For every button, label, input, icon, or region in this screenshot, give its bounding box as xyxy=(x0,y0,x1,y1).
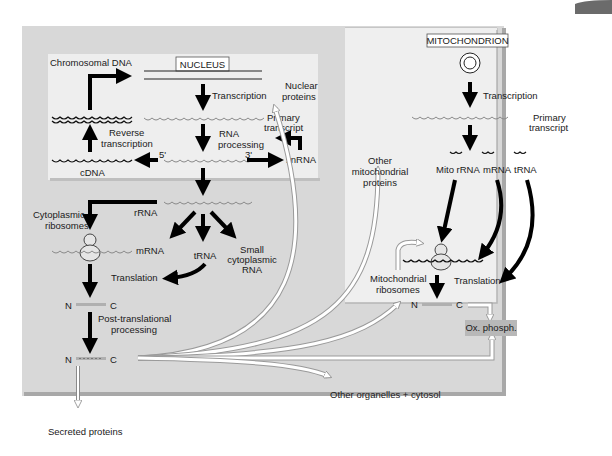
reverse-transcription-label-1: Reverse xyxy=(109,127,144,138)
nucleus-title: NUCLEUS xyxy=(180,59,225,70)
mito-primary-transcript-label-2: transcript xyxy=(529,122,568,133)
mito-c-label: C xyxy=(456,299,463,310)
mature-n-label: N xyxy=(65,354,72,365)
nucleus-panel-shadow xyxy=(50,178,320,181)
cytoplasmic-ribosomes-label-2: ribosomes xyxy=(45,220,89,231)
mito-transcription-label: Transcription xyxy=(483,90,538,101)
cyto-trna-label: tRNA xyxy=(194,250,217,261)
cyto-mrna-label: mRNA xyxy=(136,245,165,256)
nuclear-proteins-label-1: Nuclear xyxy=(285,80,318,91)
mito-n-label: N xyxy=(411,299,418,310)
mito-trna-arrow xyxy=(505,180,533,278)
nascent-n-label: N xyxy=(65,300,72,311)
chromosomal-dna-label: Chromosomal DNA xyxy=(50,57,132,68)
cyto-translation-label: Translation xyxy=(111,272,158,283)
rrna-label: rRNA xyxy=(134,207,158,218)
mito-trna-label: tRNA xyxy=(514,164,537,175)
mtdna-circle-icon xyxy=(460,53,480,73)
nascent-peptide xyxy=(76,303,106,306)
rna-processing-label-1: RNA xyxy=(219,128,240,139)
pathway-diagram: NUCLEUS Chromosomal DNA Transcription Nu… xyxy=(0,0,612,456)
other-mito-proteins-label-1: Other xyxy=(368,155,392,166)
mito-ribosomes-label-1: Mitochondrial xyxy=(370,273,427,284)
reverse-transcription-label-2: transcription xyxy=(101,138,153,149)
mature-c-label: C xyxy=(110,354,117,365)
nuclear-proteins-label-2: proteins xyxy=(282,91,316,102)
secreted-proteins-label: Secreted proteins xyxy=(48,426,123,437)
mito-translation-label: Translation xyxy=(454,275,501,286)
cdna-label: cDNA xyxy=(80,167,105,178)
mito-peptide xyxy=(422,303,452,306)
five-prime-label: 5' xyxy=(159,149,166,160)
page-tab-decoration xyxy=(575,0,612,14)
post-translational-label-1: Post-translational xyxy=(98,313,171,324)
nascent-c-label: C xyxy=(110,300,117,311)
rna-processing-label-2: processing xyxy=(218,139,264,150)
other-organelles-label: Other organelles + cytosol xyxy=(330,389,441,400)
cytoplasmic-ribosomes-label-1: Cytoplasmic xyxy=(33,209,85,220)
mito-rrna-label: Mito rRNA xyxy=(436,164,480,175)
small-cyto-rna-label-3: RNA xyxy=(242,264,263,275)
mito-ribosomes-label-2: ribosomes xyxy=(376,284,420,295)
nucleus-transcription-label: Transcription xyxy=(212,90,267,101)
other-mito-proteins-label-3: proteins xyxy=(363,177,397,188)
mitochondrion-title: MITOCHONDRION xyxy=(426,35,508,46)
post-translational-label-2: processing xyxy=(111,324,157,335)
other-mito-proteins-label-2: mitochondrial xyxy=(352,166,409,177)
ox-phosph-label: Ox. phosph. xyxy=(465,322,516,333)
mito-mrna-label: mRNA xyxy=(483,164,512,175)
